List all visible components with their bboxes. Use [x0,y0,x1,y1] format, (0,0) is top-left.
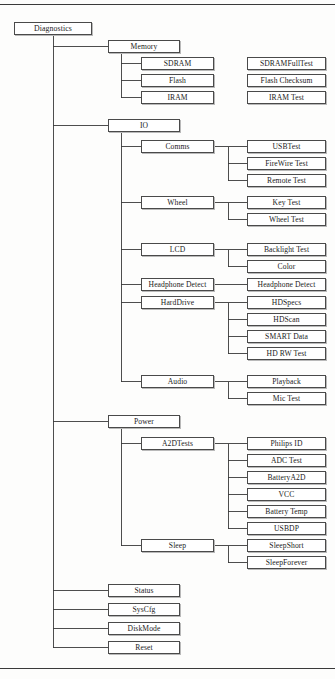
tree-node-hd-rw-test[interactable]: HD RW Test [247,347,326,360]
tree-node-label: Diagnostics [34,25,72,33]
tree-node-reset[interactable]: Reset [108,641,180,654]
tree-node-label: Battery Temp [265,508,308,516]
tree-node-flash-checksum[interactable]: Flash Checksum [247,74,326,87]
tree-node-usbdp[interactable]: USBDP [247,522,326,535]
tree-node-label: BatteryA2D [267,474,305,482]
tree-node-label: SleepForever [266,559,308,567]
tree-node-label: Comms [165,143,189,151]
tree-node-sdram[interactable]: SDRAM [141,57,214,70]
tree-node-label: Headphone Detect [149,281,207,289]
tree-node-smart-data[interactable]: SMART Data [247,330,326,343]
tree-node-label: LCD [170,246,186,254]
tree-node-sleepshort[interactable]: SleepShort [247,539,326,552]
tree-node-io[interactable]: IO [108,119,180,132]
tree-node-mic-test[interactable]: Mic Test [247,392,326,405]
tree-node-label: Remote Test [267,177,306,185]
tree-node-label: Reset [135,644,152,652]
tree-node-label: USBDP [274,525,299,533]
tree-node-label: A2DTests [162,440,193,448]
tree-node-label: FireWire Test [265,160,308,168]
tree-node-headphone-detect-leaf[interactable]: Headphone Detect [247,278,326,291]
diagnostics-tree-diagram: DiagnosticsMemorySDRAMSDRAMFullTestFlash… [0,0,335,679]
tree-node-harddrive[interactable]: HardDrive [141,296,214,309]
tree-node-label: Status [134,587,153,595]
tree-node-label: IO [140,122,148,130]
tree-node-diagnostics[interactable]: Diagnostics [14,22,92,35]
tree-node-label: Playback [272,378,301,386]
tree-node-remote-test[interactable]: Remote Test [247,174,326,187]
tree-node-adc-test[interactable]: ADC Test [247,454,326,467]
tree-node-label: Key Test [273,199,301,207]
tree-node-hdspecs[interactable]: HDSpecs [247,296,326,309]
tree-node-iram-test[interactable]: IRAM Test [247,91,326,104]
tree-node-sdramfulltest[interactable]: SDRAMFullTest [247,57,326,70]
tree-node-label: Flash Checksum [261,77,313,85]
tree-node-a2dtests[interactable]: A2DTests [141,437,214,450]
tree-node-key-test[interactable]: Key Test [247,196,326,209]
tree-node-label: Flash [169,77,186,85]
tree-node-lcd[interactable]: LCD [141,243,214,256]
tree-node-battery-temp[interactable]: Battery Temp [247,505,326,518]
tree-node-label: SDRAMFullTest [260,60,313,68]
tree-node-playback[interactable]: Playback [247,375,326,388]
tree-node-label: SleepShort [269,542,303,550]
tree-node-label: VCC [279,491,295,499]
tree-node-usbtest[interactable]: USBTest [247,140,326,153]
tree-node-power[interactable]: Power [108,415,180,428]
tree-node-wheel-test[interactable]: Wheel Test [247,213,326,226]
tree-node-status[interactable]: Status [108,584,180,597]
tree-node-firewire-test[interactable]: FireWire Test [247,157,326,170]
tree-node-label: SysCfg [133,606,156,614]
tree-node-vcc[interactable]: VCC [247,488,326,501]
tree-node-label: DiskMode [128,625,161,633]
tree-node-label: USBTest [272,143,300,151]
tree-node-label: Wheel Test [269,216,304,224]
tree-node-hdscan[interactable]: HDScan [247,313,326,326]
tree-node-diskmode[interactable]: DiskMode [108,622,180,635]
tree-node-batterya2d[interactable]: BatteryA2D [247,471,326,484]
tree-node-color[interactable]: Color [247,260,326,273]
tree-node-label: Power [134,418,154,426]
tree-node-label: SMART Data [265,333,308,341]
tree-node-label: Backlight Test [264,246,309,254]
tree-node-label: Sleep [169,542,186,550]
tree-node-headphone-detect[interactable]: Headphone Detect [141,278,214,291]
tree-node-label: Audio [168,378,187,386]
tree-node-wheel[interactable]: Wheel [141,196,214,209]
tree-node-philips-id[interactable]: Philips ID [247,437,326,450]
tree-node-syscfg[interactable]: SysCfg [108,603,180,616]
tree-node-label: HDScan [273,316,299,324]
tree-node-label: Headphone Detect [258,281,316,289]
tree-node-sleep[interactable]: Sleep [141,539,214,552]
tree-node-label: Wheel [167,199,187,207]
tree-node-label: IRAM Test [269,94,304,102]
tree-node-label: HDSpecs [272,299,301,307]
tree-node-sleepforever[interactable]: SleepForever [247,556,326,569]
tree-node-label: Mic Test [273,395,300,403]
tree-node-label: Philips ID [270,440,302,448]
tree-node-backlight-test[interactable]: Backlight Test [247,243,326,256]
tree-node-memory[interactable]: Memory [108,40,180,53]
tree-node-flash[interactable]: Flash [141,74,214,87]
tree-node-label: IRAM [167,94,187,102]
tree-node-label: HD RW Test [267,350,307,358]
tree-node-label: Memory [131,43,158,51]
tree-node-label: Color [278,263,296,271]
tree-node-audio[interactable]: Audio [141,375,214,388]
tree-node-label: SDRAM [164,60,192,68]
tree-node-label: HardDrive [161,299,194,307]
tree-node-comms[interactable]: Comms [141,140,214,153]
tree-node-label: ADC Test [271,457,302,465]
tree-node-iram[interactable]: IRAM [141,91,214,104]
